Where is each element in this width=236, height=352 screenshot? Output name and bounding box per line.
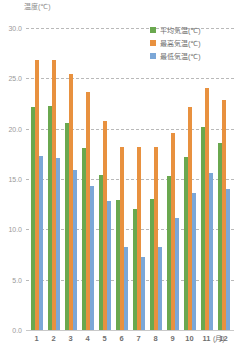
y-axis-title: 温度(℃): [24, 1, 51, 11]
temperature-bar-chart: 温度(℃) 0.05.010.015.020.025.030.0 1234567…: [0, 0, 236, 352]
y-axis-tick-label: 10.0: [0, 226, 22, 233]
x-axis-tick-label: 10: [181, 332, 198, 348]
legend-swatch-icon: [150, 53, 156, 59]
x-axis-tick-label: 9: [164, 332, 181, 348]
bar: [226, 189, 230, 330]
x-axis-tick-label: 1: [28, 332, 45, 348]
chart-legend: 平均気温(℃)最高気温(℃)最低気温(℃): [150, 25, 201, 61]
bar: [175, 218, 179, 330]
bar: [73, 170, 77, 330]
legend-item[interactable]: 平均気温(℃): [150, 25, 201, 35]
bar-group: [45, 28, 62, 330]
x-axis-ticks: 123456789101112: [26, 332, 234, 348]
bar-group: [96, 28, 113, 330]
bar-groups: [26, 28, 234, 330]
x-axis-tick-label: 7: [130, 332, 147, 348]
bar-group: [113, 28, 130, 330]
x-axis-tick-label: 5: [96, 332, 113, 348]
y-axis-tick-label: 20.0: [0, 125, 22, 132]
plot-area: 0.05.010.015.020.025.030.0: [26, 28, 234, 330]
legend-item-label: 平均気温(℃): [160, 25, 201, 35]
x-axis-tick-label: 3: [62, 332, 79, 348]
x-axis-tick-label: 2: [45, 332, 62, 348]
bar: [158, 247, 162, 330]
y-axis-tick-label: 15.0: [0, 176, 22, 183]
bar-group: [181, 28, 198, 330]
bar: [56, 158, 60, 330]
legend-swatch-icon: [150, 27, 156, 33]
y-axis-tick-label: 30.0: [0, 25, 22, 32]
legend-swatch-icon: [150, 40, 156, 46]
y-axis-tick-label: 25.0: [0, 75, 22, 82]
x-axis-tick-label: 6: [113, 332, 130, 348]
bar-group: [198, 28, 215, 330]
bar: [192, 193, 196, 330]
bar-group: [79, 28, 96, 330]
x-axis-tick-label: 8: [147, 332, 164, 348]
bar-group: [164, 28, 181, 330]
bar: [209, 173, 213, 330]
legend-item-label: 最低気温(℃): [160, 51, 201, 61]
bar-group: [147, 28, 164, 330]
bar: [107, 201, 111, 330]
bar-group: [28, 28, 45, 330]
bar: [124, 247, 128, 330]
legend-item[interactable]: 最高気温(℃): [150, 38, 201, 48]
bar-group: [62, 28, 79, 330]
bar-group: [215, 28, 232, 330]
x-axis-tick-label: 4: [79, 332, 96, 348]
gridline: [26, 330, 234, 331]
legend-item-label: 最高気温(℃): [160, 38, 201, 48]
bar: [90, 186, 94, 330]
bar: [39, 156, 43, 330]
legend-item[interactable]: 最低気温(℃): [150, 51, 201, 61]
y-axis-tick-label: 5.0: [0, 276, 22, 283]
x-axis-unit-label: (月): [213, 332, 225, 346]
y-axis-tick-label: 0.0: [0, 327, 22, 334]
bar-group: [130, 28, 147, 330]
bar: [141, 257, 145, 330]
